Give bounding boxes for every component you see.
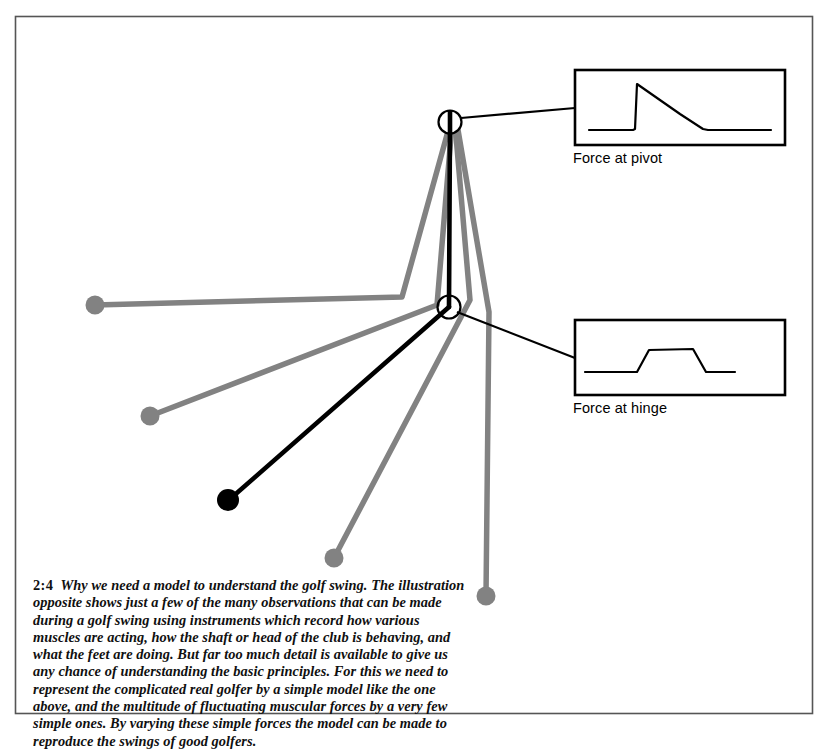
leader-to-hinge-plate (457, 312, 575, 358)
model-arm-segment (449, 122, 450, 307)
ghost-club-head-3 (325, 549, 344, 568)
ghost-club-head-2 (141, 407, 160, 426)
caption-number: 2:4 (33, 577, 53, 593)
ghost-swings-group (95, 124, 489, 596)
plate-force-at-pivot (575, 70, 785, 145)
caption-text: Why we need a model to understand the go… (33, 577, 464, 749)
ghost-swing-1 (95, 124, 450, 305)
plate-force-at-hinge (575, 320, 785, 395)
plate-pivot-frame (575, 70, 785, 145)
model-club-head (217, 489, 239, 511)
leader-to-pivot-plate (461, 108, 575, 118)
ghost-club-head-4 (477, 587, 496, 606)
plate-label-force-at-hinge: Force at hinge (573, 400, 667, 416)
plate-hinge-frame (575, 320, 785, 395)
ghost-club-heads-group (86, 296, 496, 606)
figure-caption: 2:4 Why we need a model to understand th… (33, 577, 465, 750)
ghost-club-head-1 (86, 296, 105, 315)
plate-label-force-at-pivot: Force at pivot (573, 150, 662, 166)
